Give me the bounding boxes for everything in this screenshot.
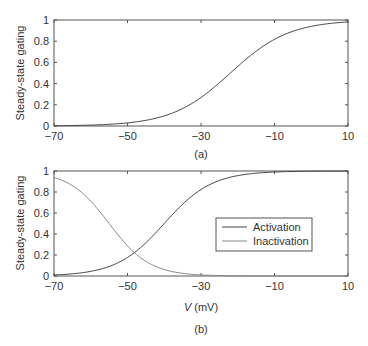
y-tick-label: 1 (43, 165, 49, 177)
panel-a-axes-frame (54, 20, 348, 126)
panel-a-y-axis-label: Steady-state gating (14, 26, 26, 121)
legend-inactivation-label: Inactivation (253, 235, 309, 247)
panel-a-chart: −70−50−30−101000.20.40.60.81 Steady-stat… (14, 14, 354, 160)
y-tick-label: 0.8 (34, 186, 49, 198)
y-tick-label: 0.6 (34, 56, 49, 68)
x-axis-unit: (mV) (191, 301, 218, 313)
x-tick-label: −30 (192, 280, 211, 292)
x-tick-label: 10 (342, 130, 354, 142)
panel-a-activation-curve (54, 22, 348, 126)
x-tick-label: −10 (265, 130, 284, 142)
legend: Activation Inactivation (216, 218, 312, 251)
x-tick-label: −30 (192, 130, 211, 142)
panel-a-label: (a) (194, 148, 207, 160)
panel-b-y-axis-label: Steady-state gating (14, 176, 26, 271)
x-tick-label: −50 (118, 280, 137, 292)
panel-b-label: (b) (194, 323, 207, 335)
y-tick-label: 0.4 (34, 228, 49, 240)
panel-b-x-axis-label: V (mV) (184, 301, 218, 313)
panel-b-chart: −70−50−30−101000.20.40.60.81 Steady-stat… (14, 165, 354, 335)
y-tick-label: 1 (43, 14, 49, 26)
y-tick-label: 0.4 (34, 78, 49, 90)
y-tick-label: 0.2 (34, 99, 49, 111)
panel-a-ticks: −70−50−30−101000.20.40.60.81 (34, 14, 354, 142)
y-tick-label: 0.2 (34, 249, 49, 261)
y-tick-label: 0.6 (34, 207, 49, 219)
figure: −70−50−30−101000.20.40.60.81 Steady-stat… (0, 0, 368, 346)
legend-activation-label: Activation (253, 221, 301, 233)
x-tick-label: −50 (118, 130, 137, 142)
x-tick-label: −10 (265, 280, 284, 292)
y-tick-label: 0 (43, 120, 49, 132)
y-tick-label: 0.8 (34, 35, 49, 47)
x-tick-label: 10 (342, 280, 354, 292)
y-tick-label: 0 (43, 270, 49, 282)
